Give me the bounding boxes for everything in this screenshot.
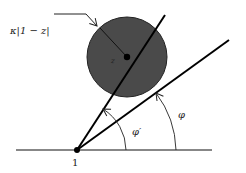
radius-pointer-arrow (54, 14, 97, 26)
origin-point (74, 147, 80, 153)
center-label: z (110, 57, 115, 65)
angle-arc-outer (156, 93, 176, 150)
diagram-canvas: κ|1 − z| z 1 φ′ φ (0, 0, 246, 173)
radius-label: κ|1 − z| (9, 25, 50, 37)
center-point (124, 54, 130, 60)
diagram-svg: κ|1 − z| z 1 φ′ φ (0, 0, 246, 173)
angle-outer-label: φ (178, 109, 185, 120)
angle-inner-label: φ′ (132, 126, 142, 137)
origin-label: 1 (72, 157, 78, 168)
